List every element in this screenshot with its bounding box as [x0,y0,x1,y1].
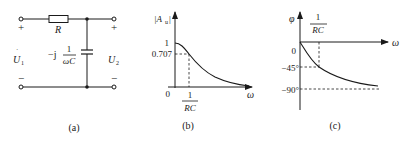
amplitude-curve [175,43,249,86]
output-plus: + [111,21,117,33]
input-voltage-label: U · 1 [13,46,24,67]
x-tick-denominator: RC [311,25,324,35]
input-plus: + [18,21,24,33]
resistor-label: R [54,24,61,35]
caption-c: (c) [329,120,340,132]
input-voltage-symbol: U [13,54,21,65]
x-tick-numerator: 1 [316,12,321,22]
panel-b-amplitude-chart: |A u | 1 0.707 0 1 RC ω (b) [152,12,254,132]
panel-a-circuit: R −j 1 ωC + − + − U · 1 U 2 (a) [13,16,119,135]
y-axis-label: |A u | [154,14,171,25]
x-axis-label: ω [392,37,399,48]
input-terminal-bottom [19,85,23,89]
origin-label: 0 [292,46,297,56]
phasor-dot-icon: · [16,46,18,54]
output-minus: − [111,72,117,84]
caption-a: (a) [68,122,79,134]
capacitor-label-denominator: ωC [63,56,76,66]
y-tick-minus-90: −90° [281,85,299,95]
input-voltage-subscript: 1 [21,60,24,66]
output-voltage-label: U 2 [108,54,119,66]
caption-b: (b) [182,120,194,132]
output-voltage-symbol: U [108,54,116,65]
figure-canvas: R −j 1 ωC + − + − U · 1 U 2 (a) |A u | 1… [0,0,406,145]
y-tick-1: 1 [165,38,170,48]
x-tick-denominator: RC [183,103,196,113]
y-tick-minus-45: −45° [281,63,299,73]
x-axis-label: ω [247,89,254,100]
resistor [49,16,68,23]
input-minus: − [18,72,24,84]
y-tick-0707: 0.707 [152,49,173,59]
y-axis-label: φ [289,13,295,24]
panel-c-phase-chart: φ ω 0 1 RC −45° −90° (c) [281,12,399,132]
y-axis-label-sub: u [165,19,168,25]
capacitor-label-prefix: −j [48,49,56,60]
y-axis-label-close: | [169,14,171,24]
capacitor-label-numerator: 1 [67,44,72,54]
x-tick-numerator: 1 [188,90,193,100]
phase-curve [300,42,378,86]
origin-label: 0 [166,89,171,99]
y-axis-label-main: |A [154,14,162,24]
output-voltage-subscript: 2 [116,60,119,66]
output-terminal-bottom [112,85,116,89]
